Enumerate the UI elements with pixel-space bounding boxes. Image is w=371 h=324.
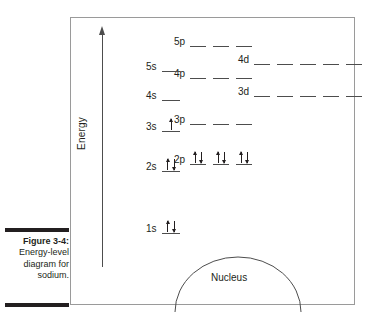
orbital-dash-3d-5: [346, 96, 362, 97]
electron-spin-up-head-icon-2p-1: [193, 151, 197, 155]
orbital-dash-5p-2: [213, 46, 229, 47]
orbital-dash-1s-1: [162, 233, 180, 234]
orbital-dash-5s-1: [162, 71, 180, 72]
orbital-dash-2p-1: [190, 164, 206, 165]
caption-line-1: Energy-level: [5, 247, 69, 258]
orbital-dash-2p-2: [213, 164, 229, 165]
orbital-dash-4d-3: [300, 64, 316, 65]
orbital-dash-3d-1: [254, 96, 270, 97]
orbital-label-3p: 3p: [174, 115, 185, 125]
orbital-dash-4d-5: [346, 64, 362, 65]
orbital-dash-3p-3: [236, 124, 252, 125]
orbital-dash-2p-3: [236, 164, 252, 165]
orbital-dash-3d-3: [300, 96, 316, 97]
caption-line-2: diagram for: [5, 259, 69, 270]
orbital-dash-4p-1: [190, 78, 206, 79]
orbital-label-5s: 5s: [146, 62, 157, 72]
figure-number-label: Figure 3-4:: [5, 236, 69, 247]
orbital-label-5p: 5p: [174, 37, 185, 47]
electron-spin-down-head-icon-2p-1: [199, 160, 203, 164]
orbital-label-4d: 4d: [238, 55, 249, 65]
orbital-label-4s: 4s: [146, 91, 157, 101]
orbital-dash-4d-1: [254, 64, 270, 65]
orbital-dash-2s-1: [162, 171, 180, 172]
electron-spin-down-head-icon-2p-2: [222, 160, 226, 164]
orbital-dash-4p-3: [236, 78, 252, 79]
orbital-dash-4p-2: [213, 78, 229, 79]
electron-spin-down-head-icon-1s-1: [172, 229, 176, 233]
electron-spin-down-head-icon-2p-3: [245, 160, 249, 164]
orbital-dash-3p-2: [213, 124, 229, 125]
nucleus-arc-icon: [174, 256, 302, 312]
orbital-dash-3p-1: [190, 124, 206, 125]
electron-spin-up-head-icon-2p-3: [239, 151, 243, 155]
electron-spin-down-head-icon-2s-1: [172, 167, 176, 171]
electron-spin-up-head-icon-1s-1: [166, 220, 170, 224]
caption-rule-bottom: [5, 303, 69, 307]
nucleus-label: Nucleus: [211, 272, 247, 283]
orbital-label-3s: 3s: [146, 122, 157, 132]
figure-caption: Figure 3-4: Energy-level diagram for sod…: [5, 228, 69, 282]
orbital-label-3d: 3d: [238, 87, 249, 97]
caption-line-3: sodium.: [5, 270, 69, 281]
electron-spin-up-head-icon-2s-1: [166, 158, 170, 162]
electron-spin-up-head-icon-2p-2: [216, 151, 220, 155]
orbital-dash-4s-1: [162, 100, 180, 101]
orbital-dash-4d-2: [277, 64, 293, 65]
energy-level-diagram: Energy 1s2s2p3s3p3d4s4p4d5s5p Nucleus: [70, 17, 355, 305]
caption-text: Figure 3-4: Energy-level diagram for sod…: [5, 232, 69, 282]
electron-spin-up-head-icon-3s-1: [169, 118, 173, 122]
orbital-label-2s: 2s: [146, 162, 157, 172]
orbital-dash-3s-1: [162, 131, 180, 132]
orbital-dash-3d-4: [323, 96, 339, 97]
energy-axis-line: [102, 32, 103, 267]
orbital-label-1s: 1s: [146, 224, 157, 234]
orbital-dash-5p-1: [190, 46, 206, 47]
energy-axis-label: Energy: [76, 117, 87, 150]
orbital-dash-5p-3: [236, 46, 252, 47]
orbital-dash-4d-4: [323, 64, 339, 65]
orbital-dash-3d-2: [277, 96, 293, 97]
orbital-label-2p: 2p: [174, 155, 185, 165]
